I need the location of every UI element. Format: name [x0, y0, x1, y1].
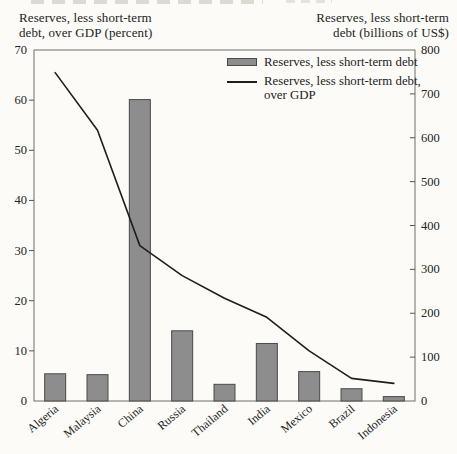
bar-brazil	[341, 389, 362, 401]
x-label-indonesia: Indonesia	[355, 401, 400, 442]
left-axis-tick-label: 30	[15, 244, 28, 258]
x-label-mexico: Mexico	[278, 402, 315, 436]
legend: Reserves, less short-term debt Reserves,…	[227, 55, 442, 103]
legend-bar-swatch	[227, 58, 257, 66]
x-label-brazil: Brazil	[326, 401, 358, 431]
legend-item-line: Reserves, less short-term debt, over GDP	[227, 74, 442, 103]
left-axis-tick-label: 0	[21, 394, 27, 408]
x-label-china: China	[115, 401, 146, 431]
x-label-india: India	[245, 401, 273, 428]
right-axis-tick-label: 100	[421, 350, 440, 364]
x-label-russia: Russia	[155, 401, 189, 433]
right-axis-tick-label: 400	[421, 219, 440, 233]
bar-thailand	[214, 384, 235, 401]
legend-bar-label: Reserves, less short-term debt	[264, 55, 418, 70]
right-axis-tick-label: 200	[421, 306, 440, 320]
chart-figure: Reserves, less short-term debt, over GDP…	[0, 0, 457, 454]
gdp-ratio-line	[55, 73, 394, 384]
left-axis-tick-label: 60	[15, 93, 28, 107]
x-label-algeria: Algeria	[25, 401, 62, 435]
right-axis-tick-label: 500	[421, 175, 440, 189]
left-axis-tick-label: 10	[15, 344, 28, 358]
legend-line-label: Reserves, less short-term debt, over GDP	[264, 74, 442, 103]
bar-russia	[172, 331, 193, 401]
bar-algeria	[45, 374, 66, 401]
right-axis-tick-label: 300	[421, 262, 440, 276]
legend-line-swatch	[227, 81, 257, 83]
legend-item-bars: Reserves, less short-term debt	[227, 55, 442, 70]
left-axis-tick-label: 40	[15, 193, 28, 207]
bar-malaysia	[87, 375, 108, 401]
left-axis-tick-label: 20	[15, 294, 28, 308]
right-axis-tick-label: 600	[421, 131, 440, 145]
bar-indonesia	[383, 397, 404, 401]
bar-india	[256, 344, 277, 401]
plot-border	[34, 50, 415, 401]
right-axis-tick-label: 0	[421, 394, 427, 408]
x-label-malaysia: Malaysia	[61, 401, 104, 440]
left-axis-tick-label: 70	[15, 43, 28, 57]
x-label-thailand: Thailand	[189, 402, 231, 440]
bar-mexico	[299, 372, 320, 401]
left-axis-tick-label: 50	[15, 143, 28, 157]
